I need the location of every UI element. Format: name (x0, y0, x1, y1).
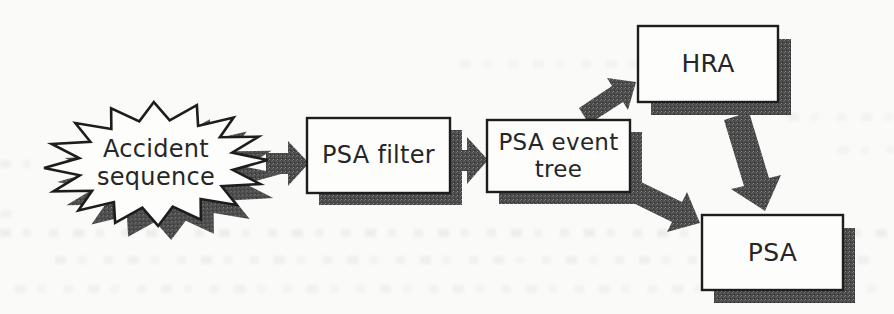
arrow-accident-to-psa-filter (266, 141, 309, 186)
scanned-figure-page: Accident sequence PSA filter PSA event t… (0, 0, 894, 314)
psa-event-tree-box (487, 120, 630, 192)
flow-diagram (0, 0, 894, 314)
hra-box (638, 26, 778, 102)
arrow-hra-to-psa (724, 112, 781, 211)
arrow-event-tree-to-psa (629, 181, 700, 232)
psa-filter-box (307, 118, 450, 193)
psa-box (702, 215, 843, 290)
arrow-event-tree-to-hra (579, 78, 636, 124)
